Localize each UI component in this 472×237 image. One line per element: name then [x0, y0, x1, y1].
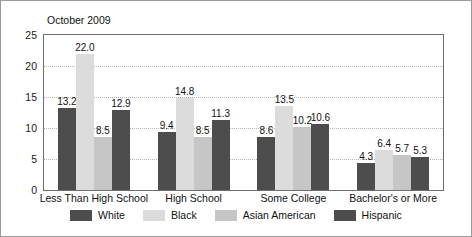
bar-value-label: 11.3: [211, 108, 230, 119]
bar: 12.9: [112, 110, 130, 190]
x-axis-category-label: Some College: [260, 192, 326, 204]
bar-group: 13.222.08.512.9: [58, 35, 130, 190]
legend-label: Asian American: [243, 209, 316, 221]
bar: 13.5: [275, 106, 293, 190]
bar: 10.6: [311, 124, 329, 190]
x-axis-category-label: Less Than High School: [40, 192, 148, 204]
bar: 4.3: [357, 163, 375, 190]
y-axis-tick-label: 5: [1, 153, 37, 165]
bar: 11.3: [212, 120, 230, 190]
legend-label: White: [98, 209, 125, 221]
bar-group: 8.613.510.210.6: [257, 35, 329, 190]
bar: 8.5: [194, 137, 212, 190]
chart-figure: October 2009 0510152025 13.222.08.512.99…: [0, 0, 472, 237]
bar: 9.4: [158, 132, 176, 190]
y-axis-tick-label: 15: [1, 91, 37, 103]
bar-value-label: 5.3: [413, 145, 427, 156]
bar-value-label: 8.5: [96, 125, 110, 136]
bars-layer: 13.222.08.512.99.414.88.511.38.613.510.2…: [44, 35, 443, 190]
bar: 22.0: [76, 54, 94, 190]
bar-value-label: 22.0: [75, 42, 94, 53]
legend-label: Hispanic: [362, 209, 402, 221]
y-axis-tick-label: 25: [1, 29, 37, 41]
y-axis-tick-label: 0: [1, 184, 37, 196]
bar-value-label: 14.8: [175, 86, 194, 97]
bar-group: 4.36.45.75.3: [357, 35, 429, 190]
bar-value-label: 8.6: [259, 125, 273, 136]
bar-value-label: 13.2: [57, 96, 76, 107]
legend-swatch: [215, 210, 237, 221]
bar: 5.3: [411, 157, 429, 190]
legend-entry[interactable]: White: [70, 209, 125, 221]
legend-swatch: [334, 210, 356, 221]
legend-entry[interactable]: Hispanic: [334, 209, 402, 221]
legend-label: Black: [171, 209, 197, 221]
bar-value-label: 4.3: [359, 151, 373, 162]
bar: 13.2: [58, 108, 76, 190]
bar-value-label: 8.5: [196, 125, 210, 136]
bar-value-label: 12.9: [111, 98, 130, 109]
chart-legend: WhiteBlackAsian AmericanHispanic: [1, 209, 471, 221]
x-axis-category-labels: Less Than High SchoolHigh SchoolSome Col…: [43, 192, 444, 208]
bar-value-label: 13.5: [275, 94, 294, 105]
bar: 8.5: [94, 137, 112, 190]
bar-value-label: 10.2: [293, 115, 312, 126]
x-axis-category-label: High School: [165, 192, 222, 204]
bar: 8.6: [257, 137, 275, 190]
bar-group: 9.414.88.511.3: [158, 35, 230, 190]
y-axis-tick-label: 10: [1, 122, 37, 134]
bar-value-label: 6.4: [377, 138, 391, 149]
x-axis-category-label: Bachelor's or More: [349, 192, 437, 204]
legend-entry[interactable]: Black: [143, 209, 197, 221]
y-axis: 0510152025: [1, 34, 37, 191]
bar-value-label: 9.4: [160, 120, 174, 131]
bar: 5.7: [393, 155, 411, 190]
bar-value-label: 5.7: [395, 143, 409, 154]
bar: 10.2: [293, 127, 311, 190]
y-axis-tick-label: 20: [1, 60, 37, 72]
legend-swatch: [70, 210, 92, 221]
legend-swatch: [143, 210, 165, 221]
legend-entry[interactable]: Asian American: [215, 209, 316, 221]
bar-value-label: 10.6: [311, 112, 330, 123]
chart-title: October 2009: [47, 14, 111, 26]
bar: 14.8: [176, 98, 194, 190]
bar: 6.4: [375, 150, 393, 190]
